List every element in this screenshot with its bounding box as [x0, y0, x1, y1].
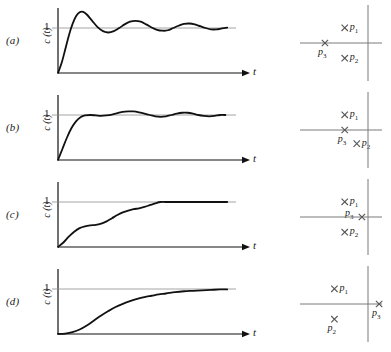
response-row-a: (a)c (t)1tp1p2p3 [0, 0, 391, 88]
s-plane-diagram [0, 174, 391, 262]
s-plane-diagram [0, 0, 391, 88]
pole-marker-p2 [354, 140, 360, 146]
pole-marker-p2 [342, 55, 348, 61]
s-plane-diagram [0, 87, 391, 175]
pole-marker-p2 [342, 229, 348, 235]
pole-marker-p1 [342, 112, 348, 118]
response-row-b: (b)c (t)1tp1p2p3 [0, 87, 391, 175]
pole-marker-p1 [342, 199, 348, 205]
pole-marker-p1 [342, 25, 348, 31]
figure-container: (a)c (t)1tp1p2p3(b)c (t)1tp1p2p3(c)c (t)… [0, 0, 391, 352]
response-row-c: (c)c (t)1tp1p2p3 [0, 174, 391, 262]
pole-marker-p2 [331, 316, 337, 322]
pole-marker-p1 [331, 286, 337, 292]
response-row-d: (d)c (t)1tp1p2p3 [0, 261, 391, 349]
s-plane-diagram [0, 261, 391, 349]
